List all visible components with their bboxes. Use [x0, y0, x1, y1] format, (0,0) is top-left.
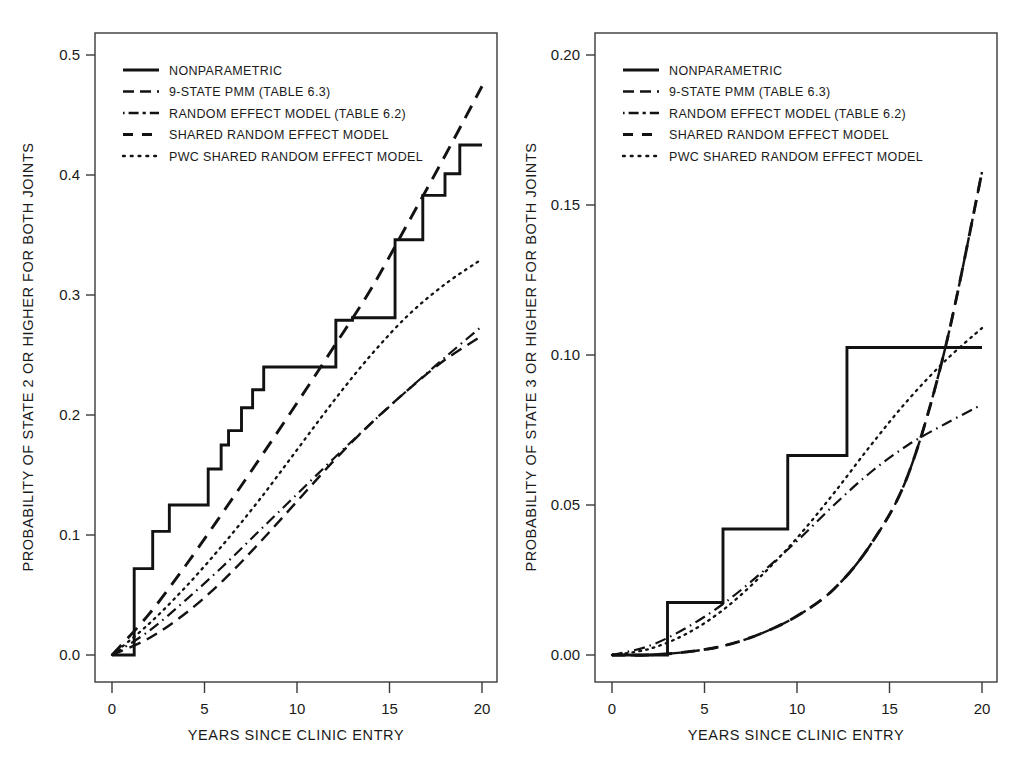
y-tick-label: 0.2 [59, 406, 80, 423]
legend-label: SHARED RANDOM EFFECT MODEL [169, 128, 389, 142]
y-tick-label: 0.3 [59, 286, 80, 303]
legend-label: NONPARAMETRIC [169, 64, 282, 78]
series-group-left [112, 86, 482, 655]
legend-label: NONPARAMETRIC [669, 64, 782, 78]
series-line [612, 348, 982, 656]
y-tick-label: 0.0 [59, 646, 80, 663]
series-line [112, 259, 482, 655]
legend-label: 9-STATE PMM (TABLE 6.3) [169, 85, 331, 99]
series-line [112, 86, 482, 655]
legend-label: 9-STATE PMM (TABLE 6.3) [669, 85, 831, 99]
y-tick-label: 0.4 [59, 166, 80, 183]
legend-label: RANDOM EFFECT MODEL (TABLE 6.2) [669, 107, 906, 121]
legend-label: RANDOM EFFECT MODEL (TABLE 6.2) [169, 107, 406, 121]
y-tick-label: 0.10 [551, 346, 580, 363]
chart-svg-right: 0.000.050.100.150.20 05101520 NONPARAMET… [516, 0, 1032, 772]
legend-right: NONPARAMETRIC9-STATE PMM (TABLE 6.3)RAND… [623, 64, 923, 164]
figure-root: 0.00.10.20.30.40.5 05101520 NONPARAMETRI… [0, 0, 1032, 772]
series-line [112, 145, 482, 655]
legend-label: SHARED RANDOM EFFECT MODEL [669, 128, 889, 142]
x-axis-left: 05101520 [108, 682, 491, 717]
x-tick-label: 20 [474, 700, 491, 717]
x-tick-label: 20 [974, 700, 991, 717]
x-tick-label: 10 [289, 700, 306, 717]
y-axis-left: 0.00.10.20.30.40.5 [59, 46, 95, 663]
x-tick-label: 5 [700, 700, 708, 717]
y-axis-title-right: PROBABILITY OF STATE 3 OR HIGHER FOR BOT… [523, 142, 539, 571]
x-axis-right: 05101520 [608, 682, 991, 717]
x-tick-label: 15 [881, 700, 898, 717]
x-tick-label: 0 [608, 700, 616, 717]
x-tick-label: 15 [381, 700, 398, 717]
legend-label: PWC SHARED RANDOM EFFECT MODEL [669, 150, 923, 164]
y-axis-right: 0.000.050.100.150.20 [551, 46, 595, 663]
x-tick-label: 0 [108, 700, 116, 717]
y-tick-label: 0.20 [551, 46, 580, 63]
legend-left: NONPARAMETRIC9-STATE PMM (TABLE 6.3)RAND… [123, 64, 423, 164]
y-tick-label: 0.05 [551, 496, 580, 513]
series-group-right [612, 172, 982, 655]
y-tick-label: 0.5 [59, 46, 80, 63]
x-axis-title-right: YEARS SINCE CLINIC ENTRY [688, 727, 904, 743]
chart-panel-left: 0.00.10.20.30.40.5 05101520 NONPARAMETRI… [0, 0, 516, 772]
y-tick-label: 0.1 [59, 526, 80, 543]
x-axis-title-left: YEARS SINCE CLINIC ENTRY [188, 727, 404, 743]
y-tick-label: 0.00 [551, 646, 580, 663]
x-tick-label: 10 [789, 700, 806, 717]
y-axis-title-left: PROBABILITY OF STATE 2 OR HIGHER FOR BOT… [20, 142, 36, 571]
chart-svg-left: 0.00.10.20.30.40.5 05101520 NONPARAMETRI… [0, 0, 516, 772]
chart-panel-right: 0.000.050.100.150.20 05101520 NONPARAMET… [516, 0, 1032, 772]
y-tick-label: 0.15 [551, 196, 580, 213]
x-tick-label: 5 [200, 700, 208, 717]
series-line [112, 336, 482, 655]
series-line [612, 172, 982, 655]
legend-label: PWC SHARED RANDOM EFFECT MODEL [169, 150, 423, 164]
